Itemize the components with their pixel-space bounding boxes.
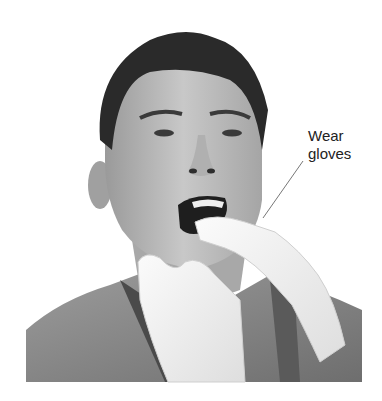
illustration-figure: Wear gloves — [0, 0, 382, 401]
exam-photo — [0, 0, 382, 401]
callout-leader-line — [263, 161, 303, 218]
callout-label: Wear gloves — [308, 127, 351, 163]
callout-line-1: Wear — [308, 127, 351, 145]
eye-right — [222, 130, 242, 137]
eye-left — [154, 130, 174, 137]
callout-line-2: gloves — [308, 145, 351, 163]
